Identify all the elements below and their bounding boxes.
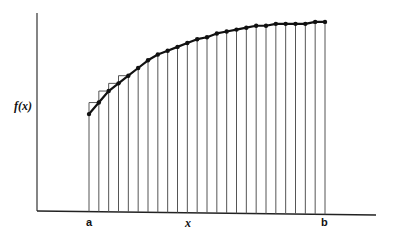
sample-point [165,49,169,53]
x-label-b: b [321,216,328,228]
x-axis-label: x [185,216,191,231]
sample-point [234,27,238,31]
x-label-a: a [86,216,92,228]
sample-point [126,73,130,77]
sample-point [224,29,228,33]
sample-point [146,58,150,62]
ordinate-lines [89,22,325,214]
sample-point [254,24,258,28]
sample-point [97,100,101,104]
sample-point [274,22,278,26]
sample-point [195,37,199,41]
sample-point [303,22,307,26]
sample-point [215,31,219,35]
sample-point [106,89,110,93]
sample-point [313,20,317,24]
sample-point [185,41,189,45]
sample-point [264,24,268,28]
sample-point [293,22,297,26]
sample-point [116,81,120,85]
sample-point [205,35,209,39]
sample-point [87,112,91,116]
sample-point [136,66,140,70]
sample-point [156,52,160,56]
sample-point [175,45,179,49]
sample-point [283,22,287,26]
y-axis-label: f(x) [14,99,32,114]
sample-point [244,25,248,29]
sample-point [323,20,327,24]
riemann-sum-figure [0,0,396,236]
